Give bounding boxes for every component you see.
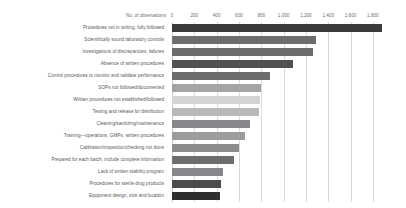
bar[interactable] [172,108,259,115]
category-label: Investigations of discrepancies, failure… [82,46,164,58]
bar[interactable] [172,84,261,91]
bar[interactable] [172,36,316,43]
bar-row[interactable] [172,94,384,106]
bar[interactable] [172,168,223,175]
bar-row[interactable] [172,70,384,82]
x-axis-title: No. of observations [0,13,166,18]
category-label: Equipment design, size and location [89,190,164,202]
bar-row[interactable] [172,82,384,94]
category-label: Lack of written stability program [98,166,164,178]
category-label: Written procedures not established/follo… [73,94,164,106]
x-tick-label: 0 [171,13,174,18]
category-label: Cleaning/sanitizing/maintenance [97,118,165,130]
category-label: Procedures not in writing, fully followe… [83,22,164,34]
bar[interactable] [172,120,250,127]
bar[interactable] [172,132,245,139]
category-label: Absence of written procedures [101,58,164,70]
bar-row[interactable] [172,130,384,142]
bar-row[interactable] [172,46,384,58]
bar[interactable] [172,24,382,31]
bar[interactable] [172,96,260,103]
plot-area [172,22,384,202]
category-label: Testing and release for distribution [93,106,164,118]
x-tick-label: 1,200 [300,13,312,18]
bar-row[interactable] [172,118,384,130]
bar-row[interactable] [172,106,384,118]
category-label: SOPs not followed/documented [98,82,164,94]
x-tick-label: 200 [190,13,198,18]
bar[interactable] [172,60,293,67]
category-label: Training—operations, GMPs, written proce… [64,130,164,142]
x-tick-label: 1,800 [367,13,379,18]
category-label: Calibration/inspection/checking not done [80,142,164,154]
x-tick-label: 400 [213,13,221,18]
category-label: Procedures for sterile drug products [89,178,164,190]
bar[interactable] [172,72,270,79]
bar[interactable] [172,48,313,55]
bar-row[interactable] [172,142,384,154]
bar-row[interactable] [172,34,384,46]
bar-row[interactable] [172,166,384,178]
bar-row[interactable] [172,154,384,166]
category-label: Control procedures to monitor and valida… [48,70,164,82]
bar[interactable] [172,192,220,199]
x-tick-label: 600 [235,13,243,18]
y-axis-category-labels: Procedures not in writing, fully followe… [0,22,168,202]
bar-chart: No. of observations 02004006008001,0001,… [0,0,406,208]
category-label: Scientifically sound laboratory controls [84,34,164,46]
bar-row[interactable] [172,190,384,202]
category-label: Prepared for each batch, include complet… [51,154,164,166]
bar[interactable] [172,144,239,151]
bar-series [172,22,384,202]
x-tick-label: 1,600 [345,13,357,18]
x-tick-label: 1,000 [278,13,290,18]
bar-row[interactable] [172,22,384,34]
bar[interactable] [172,180,221,187]
x-axis-tick-labels: 02004006008001,0001,2001,4001,6001,800 [172,13,384,21]
bar-row[interactable] [172,178,384,190]
bar[interactable] [172,156,234,163]
x-tick-label: 1,400 [322,13,334,18]
bar-row[interactable] [172,58,384,70]
x-tick-label: 800 [257,13,265,18]
